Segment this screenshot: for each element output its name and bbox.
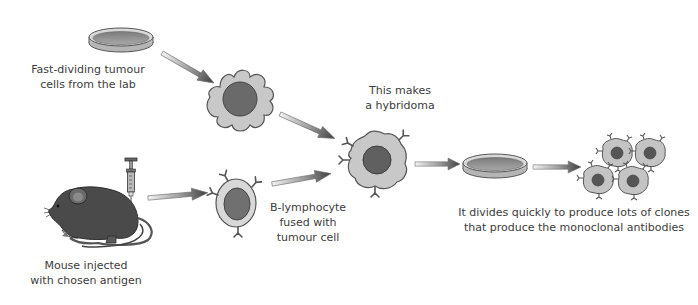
hybridoma-cell-icon <box>339 130 409 197</box>
b-lymphocyte-label-line-3: tumour cell <box>264 230 352 245</box>
mouse-label: Mouse injected with chosen antigen <box>28 258 144 288</box>
petri-dish-tumour-icon <box>89 28 153 52</box>
b-lymphocyte-label-line-2: fused with <box>264 215 352 230</box>
tumour-cell-icon <box>207 70 273 131</box>
hybridoma-label-line-2: a hybridoma <box>348 98 452 113</box>
arrow-hybridoma-to-dish-icon <box>415 158 460 170</box>
mouse-label-line-2: with chosen antigen <box>28 273 144 288</box>
arrow-dish-to-tumour-icon <box>159 48 217 88</box>
mouse-label-line-1: Mouse injected <box>28 258 144 273</box>
arrow-tumour-to-hybridoma-icon <box>278 109 338 144</box>
clones-label-line-1: It divides quickly to produce lots of cl… <box>454 205 694 220</box>
b-lymphocyte-icon <box>207 170 261 237</box>
tumour-cells-label-line-2: cells from the lab <box>20 77 156 92</box>
clone-cells-icon <box>577 133 665 200</box>
arrow-mouse-to-blymphocyte-icon <box>147 187 208 204</box>
hybridoma-label: This makes a hybridoma <box>348 83 452 113</box>
arrow-blymphocyte-to-hybridoma-icon <box>271 168 332 190</box>
tumour-cells-label: Fast-dividing tumour cells from the lab <box>20 62 156 92</box>
petri-dish-culture-icon <box>463 154 527 178</box>
tumour-cells-label-line-1: Fast-dividing tumour <box>20 62 156 77</box>
b-lymphocyte-label: B-lymphocyte fused with tumour cell <box>264 200 352 245</box>
clones-label: It divides quickly to produce lots of cl… <box>454 205 694 235</box>
hybridoma-label-line-1: This makes <box>348 83 452 98</box>
clones-label-line-2: that produce the monoclonal antibodies <box>454 220 694 235</box>
arrow-dish-to-clones-icon <box>533 161 581 173</box>
mouse-icon <box>44 187 152 247</box>
b-lymphocyte-label-line-1: B-lymphocyte <box>264 200 352 215</box>
